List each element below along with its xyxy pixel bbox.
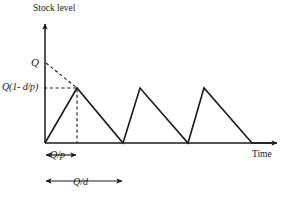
label-production-time: Q/p [50,150,65,160]
label-order-quantity: Q [31,57,39,68]
x-axis-label: Time [252,150,272,160]
stock-level-curve [45,88,272,143]
label-cycle-time: Q/d [73,177,88,187]
depletion-reference-dashed-line [46,63,77,88]
y-axis-label: Stock level [33,4,75,14]
epq-inventory-diagram [0,0,291,198]
label-max-stock-level: Q(1- d/p) [2,82,38,92]
figure-canvas: Stock level Time Q Q(1- d/p) Q/p Q/d [0,0,291,198]
